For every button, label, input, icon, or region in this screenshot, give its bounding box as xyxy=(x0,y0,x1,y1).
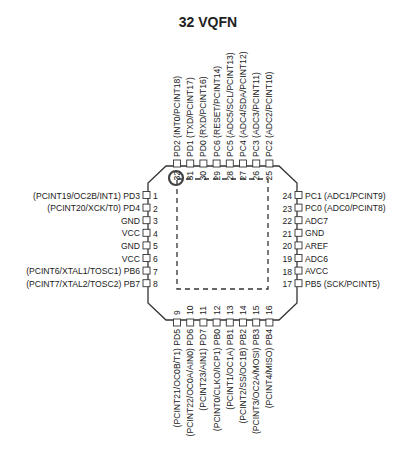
pin-number: 30 xyxy=(198,171,208,181)
pin-pad xyxy=(174,160,181,167)
pin-pad xyxy=(295,217,302,224)
pin-pad xyxy=(143,204,150,211)
pin-pad xyxy=(295,192,302,199)
pin-label: PC6 (RESET/PCINT14) xyxy=(212,66,222,157)
pin-19: 19ADC6 xyxy=(282,254,328,265)
pin-14: 14(PCINT2/SS/OC1B) PB2 xyxy=(238,305,248,423)
pin-number: 31 xyxy=(185,171,195,181)
pin-label: (PCINT3/OC2A/MOSI) PB3 xyxy=(251,329,261,434)
pin-pad xyxy=(226,160,233,167)
pin-27: 27PC4 (ADC4/SDA/PCINT12) xyxy=(238,51,248,180)
pin-pad xyxy=(266,160,273,167)
pin-26: 26PC3 (ADC3/PCINT11) xyxy=(251,72,261,181)
pin-pad xyxy=(266,319,273,326)
pin-label: ADC7 xyxy=(305,216,328,226)
exposed-pad xyxy=(177,179,268,289)
pin-label: AVCC xyxy=(305,266,328,276)
pin-9: 9(PCINT21/OC0B/T1) PD5 xyxy=(172,310,182,427)
pin-pad xyxy=(143,280,150,287)
pin-pad xyxy=(295,255,302,262)
pin-pad xyxy=(174,319,181,326)
pin-number: 4 xyxy=(153,229,158,239)
pin-pad xyxy=(240,160,247,167)
pin-pad xyxy=(143,229,150,236)
pin-label: PD0 (RXD/PCINT16) xyxy=(198,76,208,157)
pin-number: 10 xyxy=(185,305,195,315)
pin-16: 16(PCINT4/MISO) PB4 xyxy=(264,305,274,408)
pin-pad xyxy=(295,242,302,249)
pin-pad xyxy=(143,217,150,224)
pin-number: 32 xyxy=(172,171,182,181)
pin-pad xyxy=(143,242,150,249)
pin-pad xyxy=(253,160,260,167)
pin-label: GND xyxy=(121,241,140,251)
pin-label: VCC xyxy=(122,254,140,264)
pin-number: 6 xyxy=(153,254,158,264)
pin-label: PD2 (INT0/PCINT18) xyxy=(172,76,182,157)
pin-pad xyxy=(295,204,302,211)
pin-20: 20AREF xyxy=(282,241,327,252)
pin-number: 24 xyxy=(282,191,292,201)
pin-29: 29PC6 (RESET/PCINT14) xyxy=(212,66,222,181)
pin-28: 28PC5 (ADC5/SCL/PCINT13) xyxy=(225,52,235,180)
pin-number: 5 xyxy=(153,241,158,251)
pin-number: 9 xyxy=(172,310,182,315)
pin-label: PC5 (ADC5/SCL/PCINT13) xyxy=(225,52,235,157)
pin-18: 18AVCC xyxy=(282,266,328,277)
pin-30: 30PD0 (RXD/PCINT16) xyxy=(198,76,208,180)
pin-pad xyxy=(200,319,207,326)
pin-number: 1 xyxy=(153,191,158,201)
pin-number: 27 xyxy=(238,171,248,181)
pin-pad xyxy=(200,160,207,167)
pin-4: VCC4 xyxy=(122,228,158,239)
pin-label: PC2 (ADC2/PCINT10) xyxy=(264,71,274,157)
pin-number: 3 xyxy=(153,216,158,226)
pinout-diagram: (PCINT19/OC2B/INT1) PD31(PCINT20/XCK/T0)… xyxy=(0,0,416,471)
pin-label: (PCINT23/AIN1) PD7 xyxy=(198,329,208,411)
pin-22: 22ADC7 xyxy=(282,216,328,227)
pin-pad xyxy=(226,319,233,326)
pin-label: PC1 (ADC1/PCINT9) xyxy=(305,191,386,201)
pin-24: 24PC1 (ADC1/PCINT9) xyxy=(282,191,385,202)
pin-number: 11 xyxy=(198,306,208,315)
pin-number: 16 xyxy=(264,305,274,315)
pin-10: 10(PCINT22/OC0A/AIN0) PD6 xyxy=(185,305,195,436)
pin-3: GND3 xyxy=(121,216,158,227)
pin-2: (PCINT20/XCK/T0) PD42 xyxy=(47,203,158,214)
pin-pad xyxy=(143,192,150,199)
pin-5: GND5 xyxy=(121,241,158,252)
pin-label: PC3 (ADC3/PCINT11) xyxy=(251,72,261,157)
pin-13: 13(PCINT1/OC1A) PB1 xyxy=(225,305,235,409)
pin-label: (PCINT7/XTAL2/TOSC2) PB7 xyxy=(26,279,140,289)
pin-number: 13 xyxy=(225,305,235,315)
pin-number: 8 xyxy=(153,279,158,289)
pin-number: 25 xyxy=(264,171,274,181)
pin-pad xyxy=(295,280,302,287)
pin-pad xyxy=(187,160,194,167)
pin-pad xyxy=(187,319,194,326)
pin-label: PD1 (TXD/PCINT17) xyxy=(185,77,195,157)
pin-label: (PCINT2/SS/OC1B) PB2 xyxy=(238,329,248,424)
pin-number: 26 xyxy=(251,171,261,181)
pin-label: (PCINT6/XTAL1/TOSC1) PB6 xyxy=(26,266,140,276)
pin-25: 25PC2 (ADC2/PCINT10) xyxy=(264,71,274,180)
pin-number: 23 xyxy=(282,204,292,214)
pin-pad xyxy=(143,255,150,262)
pin-pad xyxy=(143,267,150,274)
pin-pad xyxy=(295,267,302,274)
pin-number: 18 xyxy=(282,267,292,277)
chip-body xyxy=(148,166,297,320)
pin-number: 14 xyxy=(238,305,248,315)
pin-number: 12 xyxy=(212,305,222,315)
pin-label: (PCINT20/XCK/T0) PD4 xyxy=(47,203,140,213)
pin-label: (PCINT4/MISO) PB4 xyxy=(264,329,274,408)
pin-label: ADC6 xyxy=(305,254,328,264)
pin-label: PC0 (ADC0/PCINT8) xyxy=(305,203,386,213)
pin-21: 21GND xyxy=(282,228,324,239)
pin-11: 11(PCINT23/AIN1) PD7 xyxy=(198,306,208,411)
pin-number: 21 xyxy=(282,229,292,239)
pin-label: (PCINT19/OC2B/INT1) PD3 xyxy=(33,191,140,201)
pin-label: VCC xyxy=(122,228,140,238)
pin-15: 15(PCINT3/OC2A/MOSI) PB3 xyxy=(251,305,261,434)
pin-label: GND xyxy=(305,228,324,238)
